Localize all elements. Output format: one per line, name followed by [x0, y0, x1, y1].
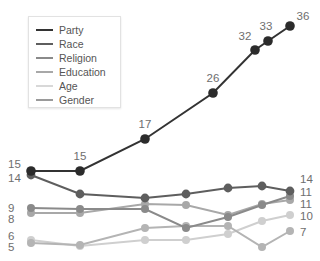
legend-item-gender[interactable]: Gender [36, 93, 120, 107]
series-race-point [258, 182, 267, 191]
series-gender-point [224, 222, 232, 230]
series-religion-point [141, 205, 149, 213]
series-party-point [26, 166, 36, 176]
legend-label-age: Age [59, 81, 78, 92]
series-race-point [141, 194, 150, 203]
series-race [27, 171, 295, 203]
right-label-education: 11 [300, 198, 312, 210]
series-gender-point [27, 239, 35, 247]
series-education-line [31, 200, 290, 215]
line-chart: 15 15 17 26 32 33 36 14 9 8 6 5 14 11 11… [0, 0, 320, 261]
legend-swatch-party [36, 29, 53, 31]
legend-swatch-race [36, 43, 53, 45]
series-gender-point [76, 241, 84, 249]
legend-item-religion[interactable]: Religion [36, 51, 120, 65]
legend-item-race[interactable]: Race [36, 37, 120, 51]
series-gender-point [286, 227, 294, 235]
chart-legend: Party Race Religion Education Age Gender [28, 16, 121, 108]
legend-item-party[interactable]: Party [36, 23, 120, 37]
series-religion-point [182, 224, 190, 232]
legend-item-age[interactable]: Age [36, 79, 120, 93]
right-label-religion: 11 [300, 186, 312, 198]
legend-label-gender: Gender [59, 95, 94, 106]
series-religion-point [27, 204, 35, 212]
left-label-education: 8 [8, 213, 14, 225]
legend-swatch-age [36, 85, 53, 87]
series-religion-point [76, 205, 84, 213]
series-religion-point [224, 213, 232, 221]
party-label-0: 15 [8, 158, 21, 170]
legend-label-religion: Religion [59, 53, 97, 64]
series-age-point [141, 236, 149, 244]
legend-swatch-religion [36, 57, 53, 59]
series-age-point [224, 230, 232, 238]
legend-swatch-gender [36, 99, 53, 101]
series-race-point [76, 190, 85, 199]
legend-item-education[interactable]: Education [36, 65, 120, 79]
series-party-point [285, 21, 295, 31]
series-age-point [258, 217, 266, 225]
party-label-2: 17 [139, 118, 152, 130]
series-race-point [224, 184, 233, 193]
right-label-age: 10 [300, 210, 313, 222]
series-education-point [182, 201, 190, 209]
series-age-point [286, 211, 294, 219]
series-race-line [31, 175, 290, 198]
series-race-point [286, 187, 295, 196]
legend-swatch-education [36, 71, 53, 73]
series-party-point [75, 166, 85, 176]
series-party-point [208, 88, 218, 98]
left-label-race: 14 [8, 172, 21, 184]
left-label-gender: 5 [8, 241, 14, 253]
party-label-3: 26 [207, 72, 220, 84]
party-label-5: 33 [260, 20, 273, 32]
legend-label-race: Race [59, 39, 84, 50]
series-gender-point [258, 243, 266, 251]
right-label-gender: 7 [300, 226, 306, 238]
series-gender-point [141, 224, 149, 232]
legend-label-education: Education [59, 67, 106, 78]
series-party-point [140, 134, 150, 144]
legend-label-party: Party [59, 25, 84, 36]
series-party-point [263, 36, 273, 46]
party-label-1: 15 [74, 150, 87, 162]
series-party-point [250, 45, 260, 55]
series-gender [27, 222, 294, 251]
series-race-point [182, 190, 191, 199]
series-religion-point [258, 201, 266, 209]
series-gender-line [31, 226, 290, 247]
series-age-point [182, 236, 190, 244]
party-label-4: 32 [239, 30, 252, 42]
right-label-race: 14 [300, 173, 313, 185]
party-label-6: 36 [297, 10, 310, 22]
